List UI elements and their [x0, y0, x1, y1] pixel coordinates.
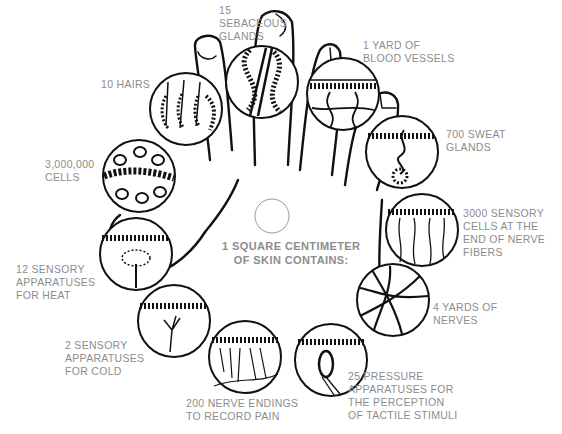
palm-left-edge: [205, 180, 238, 232]
label-cold-apparatuses: 2 SENSORY APPARATUSES FOR COLD: [65, 339, 144, 378]
label-pressure-apparatuses: 25 PRESSURE APPARATUSES FOR THE PERCEPTI…: [348, 370, 457, 422]
blood-vessels-circle: [307, 58, 379, 130]
index-nail: [198, 52, 216, 59]
heat-apparatus-circle: [100, 218, 172, 290]
skin-diagram: 15 SEBACEOUS GLANDS 1 YARD OF BLOOD VESS…: [0, 0, 562, 434]
cold-apparatus-circle: [138, 285, 210, 357]
one-square-cm-circle: [255, 199, 289, 233]
label-sweat-glands: 700 SWEAT GLANDS: [446, 128, 506, 154]
label-sensory-cells: 3000 SENSORY CELLS AT THE END OF NERVE F…: [463, 207, 545, 259]
diagram-title: 1 SQUARE CENTIMETER OF SKIN CONTAINS:: [222, 239, 360, 267]
sebaceous-glands-circle: [226, 46, 298, 118]
nerves-circle: [357, 264, 429, 336]
label-pain-nerve-endings: 200 NERVE ENDINGS TO RECORD PAIN: [186, 397, 298, 423]
label-hairs: 10 HAIRS: [101, 78, 150, 91]
hairs-circle: [150, 73, 222, 145]
sweat-glands-circle: [366, 116, 438, 188]
sensory-cells-circle: [386, 194, 458, 266]
cells-circle: [103, 140, 175, 212]
label-heat-apparatuses: 12 SENSORY APPARATUSES FOR HEAT: [16, 263, 95, 302]
label-sebaceous-glands: 15 SEBACEOUS GLANDS: [219, 4, 287, 43]
label-blood-vessels: 1 YARD OF BLOOD VESSELS: [363, 39, 454, 65]
magnified-circles: [100, 46, 458, 396]
label-nerves: 4 YARDS OF NERVES: [433, 301, 497, 327]
pain-nerve-endings-circle: [209, 321, 281, 393]
label-cells: 3,000,000 CELLS: [45, 158, 94, 184]
